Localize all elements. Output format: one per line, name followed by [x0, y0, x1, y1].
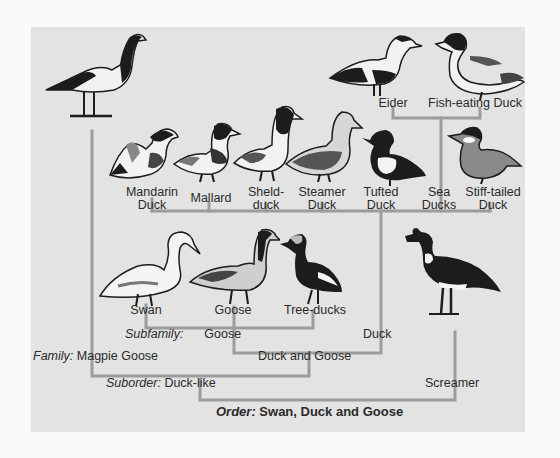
- label-goose: Goose: [208, 304, 258, 317]
- label-steamer-duck: Steamer Duck: [294, 186, 350, 212]
- order-prefix: Order:: [216, 404, 256, 419]
- swan-illustration: [98, 228, 202, 308]
- subfamily-duck: Duck: [363, 328, 391, 341]
- subfamily-goose: Goose: [204, 327, 241, 341]
- label-mandarin-duck: Mandarin Duck: [118, 186, 186, 212]
- suborder-prefix: Suborder:: [106, 376, 161, 390]
- stiff-tailed-duck-illustration: [447, 126, 523, 186]
- order-branch: [200, 332, 455, 400]
- screamer-illustration: [403, 226, 503, 318]
- suborder-screamer: Screamer: [425, 377, 479, 390]
- fish-eating-duck-illustration: [430, 30, 525, 102]
- eider-illustration: [328, 30, 423, 100]
- magpie-goose-illustration: [42, 28, 150, 124]
- label-swan: Swan: [124, 304, 168, 317]
- steamer-duck-illustration: [284, 108, 364, 186]
- order-row: Order: Swan, Duck and Goose: [216, 405, 403, 418]
- suborder-duck-like: Duck-like: [164, 376, 215, 390]
- label-eider: Eider: [366, 97, 420, 110]
- family-magpie-goose: Magpie Goose: [77, 349, 158, 363]
- label-shelduck: Sheld- duck: [243, 186, 289, 212]
- family-prefix: Family:: [33, 349, 73, 363]
- label-tufted-duck: Tufted Duck: [356, 186, 406, 212]
- tree-ducks-illustration: [278, 232, 346, 308]
- label-mallard: Mallard: [186, 192, 236, 205]
- mandarin-duck-illustration: [106, 123, 182, 185]
- label-stiff-tailed-duck: Stiff-tailed Duck: [458, 186, 528, 212]
- order-name: Swan, Duck and Goose: [259, 404, 403, 419]
- subfamily-prefix: Subfamily:: [125, 327, 183, 341]
- label-tree-ducks: Tree-ducks: [278, 304, 352, 317]
- goose-illustration: [188, 226, 280, 308]
- suborder-row: Suborder: Duck-like: [106, 377, 216, 390]
- tufted-duck-illustration: [360, 128, 428, 186]
- subfamily-row: Subfamily: Goose: [125, 328, 241, 341]
- family-duck-and-goose: Duck and Goose: [258, 350, 351, 363]
- label-sea-ducks: Sea Ducks: [414, 186, 464, 212]
- family-row: Family: Magpie Goose: [33, 350, 158, 363]
- label-fish-eating-duck: Fish-eating Duck: [420, 97, 530, 110]
